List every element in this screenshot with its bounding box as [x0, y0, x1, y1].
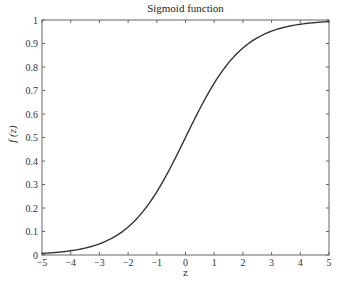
y-tick-label: 0.3: [26, 179, 39, 190]
figure-caption: [0, 280, 341, 292]
y-tick-label: 0.6: [26, 109, 39, 120]
sigmoid-figure: Sigmoid function −5−4−3−2−101234500.10.2…: [0, 0, 341, 294]
y-tick-label: 0.4: [26, 156, 39, 167]
y-tick-label: 0: [33, 250, 38, 261]
sigmoid-curve: [42, 22, 329, 254]
y-tick-label: 1: [33, 15, 38, 26]
y-tick-label: 0.2: [26, 203, 39, 214]
y-tick-label: 0.5: [26, 132, 39, 143]
x-axis-label: z: [42, 266, 329, 278]
y-axis-label: f (z): [6, 114, 18, 154]
plot-area: −5−4−3−2−101234500.10.20.30.40.50.60.70.…: [0, 0, 341, 294]
y-tick-label: 0.7: [26, 85, 39, 96]
y-tick-label: 0.1: [26, 226, 39, 237]
y-tick-label: 0.8: [26, 62, 39, 73]
y-tick-label: 0.9: [26, 38, 39, 49]
